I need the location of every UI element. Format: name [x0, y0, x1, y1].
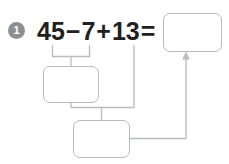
equation-term-3: 13 [112, 17, 140, 46]
equation-term-2: 7 [81, 17, 95, 46]
equation-operator-plus: + [95, 17, 112, 46]
equation-operator-equals: = [140, 17, 157, 46]
equation-expression: 45−7+13= [37, 17, 156, 45]
answer-box-middle-step[interactable] [43, 66, 99, 103]
bottom-box-to-result-box-line [130, 58, 186, 139]
answer-box-result[interactable] [163, 13, 222, 52]
answer-box-bottom-step[interactable] [73, 120, 130, 158]
equation-operator-minus: − [65, 17, 82, 46]
equation-term-1: 45 [37, 17, 65, 46]
problem-number-badge: 1 [8, 22, 25, 39]
middle-box-to-bottom-box-line [71, 103, 102, 120]
term-13-to-bottom-box-line [102, 45, 135, 108]
worksheet-problem: 1 45−7+13= [0, 0, 229, 164]
arrowhead-up-icon [182, 52, 190, 60]
grouping-bracket [53, 45, 90, 57]
